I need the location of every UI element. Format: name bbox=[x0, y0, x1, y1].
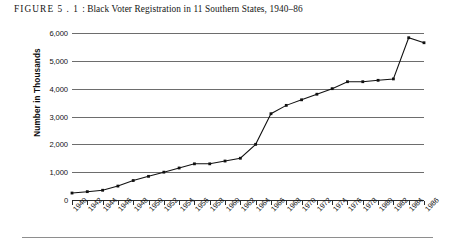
y-tick-label: 0 bbox=[24, 196, 68, 205]
gridline bbox=[72, 89, 424, 90]
y-tick-label: 3,000 bbox=[24, 113, 68, 122]
y-tick-label: 4,000 bbox=[24, 85, 68, 94]
gridline bbox=[72, 61, 424, 62]
chart-figure: Number in Thousands 01,0002,0003,0004,00… bbox=[0, 0, 455, 250]
y-tick-label: 2,000 bbox=[24, 140, 68, 149]
plot-area bbox=[72, 33, 424, 200]
bottom-rule bbox=[22, 237, 433, 238]
gridline bbox=[72, 117, 424, 118]
x-tick-label: 1986 bbox=[423, 196, 441, 214]
gridline bbox=[72, 144, 424, 145]
y-tick-label: 6,000 bbox=[24, 29, 68, 38]
gridline bbox=[72, 172, 424, 173]
gridline bbox=[72, 33, 424, 34]
y-axis-labels: 01,0002,0003,0004,0005,0006,000 bbox=[18, 0, 68, 250]
y-tick-label: 1,000 bbox=[24, 168, 68, 177]
y-tick-label: 5,000 bbox=[24, 57, 68, 66]
